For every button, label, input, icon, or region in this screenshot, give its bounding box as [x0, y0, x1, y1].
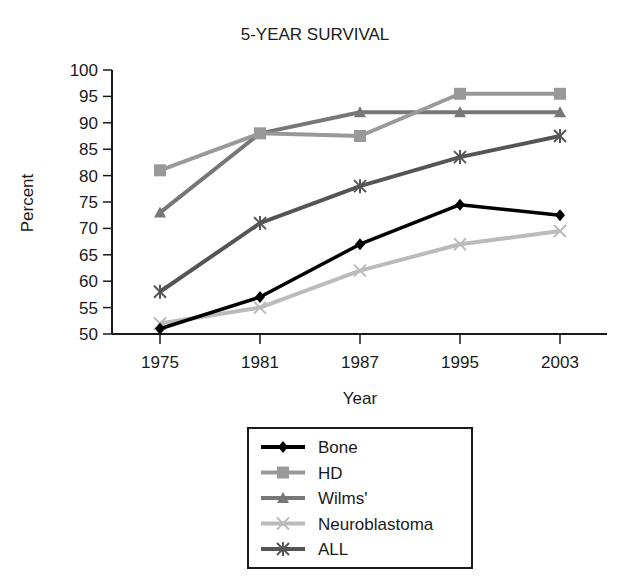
x-tick-label: 2003	[541, 353, 579, 372]
series-wilms	[154, 106, 566, 217]
legend-label: HD	[318, 464, 343, 483]
legend-label: ALL	[318, 540, 348, 559]
legend-label: Bone	[318, 438, 358, 457]
data-point-marker	[555, 209, 565, 221]
y-tick-label: 80	[79, 167, 98, 186]
data-point-marker	[354, 130, 366, 142]
data-point-marker	[254, 127, 266, 139]
x-tick-label: 1995	[441, 353, 479, 372]
data-point-marker	[154, 285, 166, 299]
y-tick-label: 85	[79, 140, 98, 159]
y-tick-label: 100	[70, 61, 98, 80]
y-tick-label: 70	[79, 219, 98, 238]
series-all	[154, 129, 566, 299]
y-tick-label: 65	[79, 246, 98, 265]
line-chart: 5-YEAR SURVIVAL 50556065707580859095100 …	[0, 0, 628, 581]
data-point-marker	[154, 164, 166, 176]
series-hd	[154, 88, 566, 177]
data-point-marker	[277, 467, 289, 479]
y-tick-label: 50	[79, 325, 98, 344]
data-point-marker	[454, 88, 466, 100]
y-tick-label: 55	[79, 299, 98, 318]
data-point-marker	[255, 291, 265, 303]
legend-label: Neuroblastoma	[318, 515, 434, 534]
y-tick-label: 95	[79, 87, 98, 106]
legend: BoneHDWilms'NeuroblastomaALL	[248, 428, 472, 568]
chart-title: 5-YEAR SURVIVAL	[241, 25, 390, 44]
y-axis-label: Percent	[18, 173, 37, 232]
y-tick-label: 60	[79, 272, 98, 291]
x-axis: 19751981198719952003	[112, 334, 607, 372]
data-point-marker	[355, 238, 365, 250]
x-tick-label: 1981	[241, 353, 279, 372]
data-point-marker	[554, 88, 566, 100]
x-tick-label: 1975	[141, 353, 179, 372]
y-tick-label: 90	[79, 114, 98, 133]
x-tick-label: 1987	[341, 353, 379, 372]
x-axis-label: Year	[343, 389, 378, 408]
plot-area	[154, 88, 566, 335]
y-axis: 50556065707580859095100	[70, 61, 112, 344]
data-point-marker	[455, 199, 465, 211]
legend-label: Wilms'	[318, 489, 368, 508]
y-tick-label: 75	[79, 193, 98, 212]
